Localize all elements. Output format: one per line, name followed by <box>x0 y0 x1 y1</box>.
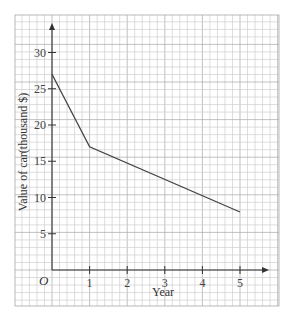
x-axis-title: Year <box>152 285 174 299</box>
x-tick-label: 5 <box>237 276 243 290</box>
line-chart: 1234551015202530 O Year Value of car(tho… <box>0 0 289 319</box>
y-tick-label: 30 <box>34 46 46 60</box>
y-axis-arrow-icon <box>49 23 55 30</box>
grid <box>15 15 279 306</box>
y-tick-label: 15 <box>34 154 46 168</box>
origin-label: O <box>39 273 49 288</box>
y-tick-label: 20 <box>34 118 46 132</box>
axes <box>48 23 269 274</box>
x-axis-arrow-icon <box>262 267 269 273</box>
x-tick-label: 2 <box>124 276 130 290</box>
y-tick-label: 25 <box>34 82 46 96</box>
x-tick-label: 1 <box>87 276 93 290</box>
value-line <box>52 74 240 212</box>
y-axis-title: Value of car(thousand $) <box>16 93 30 211</box>
x-tick-label: 4 <box>199 276 205 290</box>
y-tick-label: 10 <box>34 191 46 205</box>
y-tick-label: 5 <box>40 227 46 241</box>
